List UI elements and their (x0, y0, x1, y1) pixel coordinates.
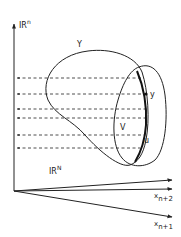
intersection-arc (135, 71, 146, 162)
set-V-label: V (120, 123, 126, 132)
diagram-canvas: IRn Y V y u IRN xn+2 xn+1 (0, 0, 181, 237)
axis-x-n2-label: xn+2 (154, 192, 173, 203)
axis-x-n1-label: xn+1 (154, 220, 173, 231)
point-y (144, 92, 147, 95)
vertical-axis-label: IRn (19, 18, 31, 30)
point-y-label: y (150, 90, 155, 99)
projection-lines (17, 78, 147, 148)
base-space-label: IRN (49, 164, 61, 176)
axis-x-n1 (14, 191, 172, 217)
set-Y-label: Y (76, 40, 82, 49)
point-u-label: u (144, 136, 149, 145)
